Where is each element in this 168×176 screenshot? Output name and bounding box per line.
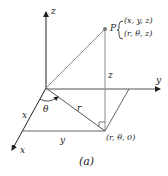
floor-far-side xyxy=(105,89,129,131)
x-axis xyxy=(12,88,46,150)
right-angle-mark xyxy=(99,122,105,127)
height-z-label: z xyxy=(108,71,113,80)
radius-r-label: r xyxy=(77,104,81,113)
cylindrical-coords-label: (r, θ, z) xyxy=(124,30,152,38)
origin-to-point-line xyxy=(46,29,105,88)
y-axis-label: y xyxy=(156,76,161,85)
projection-label: (r, θ, 0) xyxy=(106,134,135,142)
cylindrical-coordinates-diagram: z y x P (x, y, z) (r, θ, z) z r θ x y (r… xyxy=(0,0,168,176)
y-length-label: y xyxy=(60,136,65,145)
figure-caption: (a) xyxy=(79,156,94,167)
cartesian-coords-label: (x, y, z) xyxy=(124,17,153,25)
theta-arc xyxy=(40,97,58,101)
point-p-marker xyxy=(103,27,107,31)
diagram-canvas xyxy=(0,0,168,176)
theta-label: θ xyxy=(43,105,48,114)
brace xyxy=(117,21,123,39)
x-axis-label: x xyxy=(20,146,25,155)
radius-line xyxy=(46,88,105,131)
z-axis-label: z xyxy=(51,7,56,16)
x-length-label: x xyxy=(22,111,27,120)
point-p-label: P xyxy=(110,24,116,33)
